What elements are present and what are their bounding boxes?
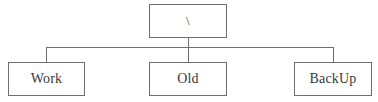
edge-drop-to-work [46,47,47,63]
backup-node[interactable]: BackUp [294,62,372,96]
edge-drop-to-old [188,47,189,63]
old-node-label: Old [177,72,199,86]
edge-drop-to-backup [333,47,334,63]
directory-tree-diagram: \ Work Old BackUp [0,0,378,102]
work-node[interactable]: Work [8,62,85,96]
work-node-label: Work [31,72,63,86]
backup-node-label: BackUp [309,72,356,86]
old-node[interactable]: Old [149,62,227,96]
edge-horizontal-bus [46,47,334,48]
root-node-label: \ [186,14,190,27]
root-node[interactable]: \ [149,4,227,38]
